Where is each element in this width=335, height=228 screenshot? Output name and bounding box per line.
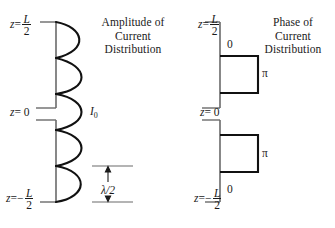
- phase-value-lower-zero: 0: [227, 183, 233, 195]
- curve-lobe-4: [56, 130, 82, 166]
- phase-bottom-denominator: 2: [213, 199, 221, 211]
- phase-bottom-sign: −: [205, 192, 212, 204]
- curve-lobe-5: [56, 166, 81, 202]
- phase-zero-eq: = 0: [204, 106, 219, 118]
- amplitude-panel-title: Amplitude of Current Distribution: [92, 16, 174, 57]
- current-distribution-curve: [56, 22, 82, 202]
- amplitude-zero-eq: = 0: [14, 106, 29, 118]
- amplitude-top-fraction: L2: [22, 14, 30, 37]
- phase-value-lower-pi: π: [262, 147, 268, 159]
- amplitude-top-denominator: 2: [22, 25, 30, 37]
- half-wavelength-label: λ/2: [101, 184, 115, 196]
- phase-top-fraction: L2: [210, 14, 218, 37]
- amplitude-top-eq: =: [14, 18, 21, 30]
- figure-root: Amplitude of Current Distribution Phase …: [0, 0, 335, 228]
- amplitude-axis-label-bottom: z=−L2: [6, 188, 33, 211]
- amplitude-bottom-numerator: L: [25, 188, 33, 200]
- curve-lobe-2: [56, 58, 82, 94]
- phase-panel-title: Phase of Current Distribution: [252, 16, 334, 57]
- phase-title-line-3: Distribution: [252, 43, 334, 57]
- curve-lobe-3: [56, 94, 82, 130]
- phase-bottom-fraction: L2: [213, 188, 221, 211]
- phase-step-lower: [220, 135, 258, 172]
- amplitude-top-numerator: L: [22, 14, 30, 26]
- amplitude-axis-label-zero: z= 0: [10, 106, 30, 118]
- phase-title-line-1: Phase of: [252, 16, 334, 30]
- peak-current-label: I0: [90, 105, 98, 120]
- phase-title-line-2: Current: [252, 30, 334, 44]
- peak-current-subscript: 0: [94, 111, 98, 120]
- phase-top-eq: =: [202, 18, 209, 30]
- phase-axis-label-top: z=L2: [198, 14, 219, 37]
- amplitude-title-line-2: Current: [92, 30, 174, 44]
- amplitude-bottom-denominator: 2: [25, 199, 33, 211]
- phase-value-upper-zero: 0: [227, 38, 233, 50]
- amplitude-title-line-1: Amplitude of: [92, 16, 174, 30]
- phase-bottom-numerator: L: [213, 188, 221, 200]
- phase-step-upper: [220, 56, 258, 93]
- phase-top-denominator: 2: [210, 25, 218, 37]
- amplitude-axis-label-top: z=L2: [10, 14, 31, 37]
- phase-axis-label-bottom: z=−L2: [194, 188, 221, 211]
- curve-lobe-1: [56, 22, 79, 58]
- phase-top-numerator: L: [210, 14, 218, 26]
- phase-axis-label-zero: z= 0: [200, 106, 220, 118]
- amplitude-title-line-3: Distribution: [92, 43, 174, 57]
- phase-value-upper-pi: π: [262, 67, 268, 79]
- amplitude-bottom-sign: −: [17, 192, 24, 204]
- amplitude-bottom-fraction: L2: [25, 188, 33, 211]
